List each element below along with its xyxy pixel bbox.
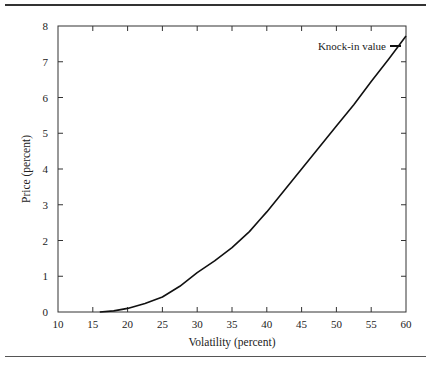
y-tick-label: 0 <box>43 306 49 318</box>
series-lines <box>100 36 406 312</box>
line-chart: 1015202530354045505560012345678 Knock-in… <box>0 0 433 370</box>
legend-label: Knock-in value <box>318 40 386 52</box>
x-axis-title: Volatility (percent) <box>189 336 276 349</box>
x-tick-label: 40 <box>261 318 273 330</box>
series-line-knock-in-value <box>100 36 406 312</box>
x-tick-label: 60 <box>401 318 413 330</box>
y-tick-label: 8 <box>43 20 49 32</box>
y-tick-label: 2 <box>43 235 49 247</box>
y-tick-label: 3 <box>43 199 49 211</box>
legend: Knock-in value <box>318 40 401 52</box>
plot-axes <box>58 26 406 312</box>
x-tick-label: 20 <box>122 318 134 330</box>
y-tick-label: 6 <box>43 92 49 104</box>
axis-ticks: 1015202530354045505560012345678 <box>43 20 413 330</box>
x-tick-label: 35 <box>227 318 239 330</box>
x-tick-label: 25 <box>157 318 169 330</box>
y-tick-label: 1 <box>43 270 49 282</box>
x-tick-label: 55 <box>366 318 378 330</box>
x-tick-label: 50 <box>331 318 343 330</box>
x-tick-label: 30 <box>192 318 204 330</box>
y-tick-label: 7 <box>43 56 49 68</box>
x-tick-label: 15 <box>87 318 99 330</box>
x-tick-label: 10 <box>53 318 65 330</box>
x-tick-label: 45 <box>296 318 308 330</box>
y-axis-title: Price (percent) <box>20 135 33 203</box>
plot-frame <box>58 26 406 312</box>
y-tick-label: 4 <box>43 163 49 175</box>
y-tick-label: 5 <box>43 127 49 139</box>
